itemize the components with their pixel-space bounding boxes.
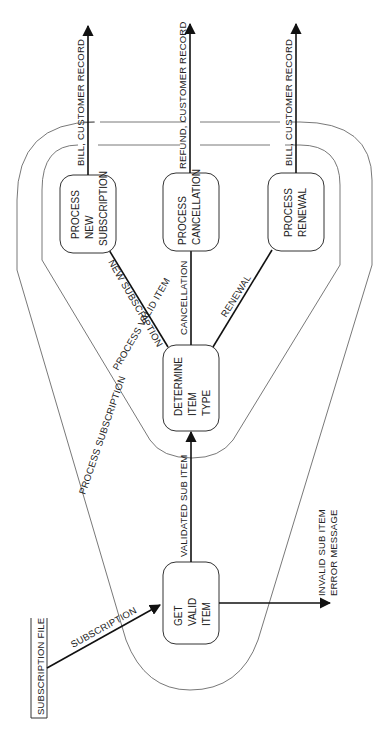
- process-subscription-label: PROCESS SUBSCRIPTION: [76, 374, 127, 495]
- svg-text:PROCESS: PROCESS: [70, 190, 81, 239]
- subscription-file-entity[interactable]: SUBSCRIPTION FILE: [31, 618, 47, 718]
- renewal-flow: [213, 250, 272, 347]
- svg-text:VALID: VALID: [187, 598, 198, 626]
- process-cancellation-process[interactable]: PROCESS CANCELLATION: [163, 169, 219, 251]
- svg-text:CANCELLATION: CANCELLATION: [191, 169, 202, 245]
- process-renewal-process[interactable]: PROCESS RENEWAL: [268, 173, 324, 251]
- svg-text:ITEM: ITEM: [201, 602, 212, 626]
- svg-text:TYPE: TYPE: [201, 390, 212, 416]
- svg-text:GET: GET: [173, 605, 184, 626]
- svg-text:PROCESS: PROCESS: [283, 188, 294, 237]
- subscription-flow-label: SUBSCRIPTION: [69, 604, 139, 649]
- data-flow-diagram: PROCESS SUBSCRIPTION PROCESS VALID ITEM …: [0, 0, 387, 735]
- process-new-subscription-process[interactable]: PROCESS NEW SUBSCRIPTION: [60, 171, 116, 253]
- determine-item-type-process[interactable]: DETERMINE ITEM TYPE: [163, 345, 219, 431]
- renewal-flow-label: RENEWAL: [218, 272, 253, 319]
- svg-text:NEW: NEW: [84, 215, 95, 239]
- invalid-flow-label-line2: ERROR MESSAGE: [328, 509, 339, 596]
- cancellation-output-label: REFUND, CUSTOMER RECORD: [177, 22, 188, 169]
- cancellation-flow-label: CANCELLATION: [178, 260, 189, 335]
- validated-flow-label: VALIDATED SUB ITEM: [178, 455, 189, 558]
- new-subscription-output-label: BILL, CUSTOMER RECORD: [75, 39, 86, 166]
- svg-text:DETERMINE: DETERMINE: [173, 357, 184, 416]
- svg-text:PROCESS: PROCESS: [177, 196, 188, 245]
- invalid-flow-label-line1: INVALID SUB ITEM: [316, 509, 327, 596]
- get-valid-item-process[interactable]: GET VALID ITEM: [163, 562, 219, 644]
- subscription-file-label: SUBSCRIPTION FILE: [35, 618, 46, 715]
- renewal-output-label: BILL, CUSTOMER RECORD: [283, 39, 294, 166]
- subscription-flow-arrow: [47, 605, 160, 668]
- svg-text:ITEM: ITEM: [187, 392, 198, 416]
- svg-text:RENEWAL: RENEWAL: [297, 187, 308, 237]
- svg-text:SUBSCRIPTION: SUBSCRIPTION: [98, 171, 109, 246]
